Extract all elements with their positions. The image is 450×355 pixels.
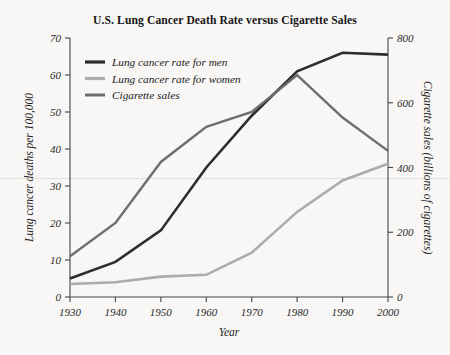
chart-plot: 010203040506070 0200400600800 1930194019…: [0, 0, 450, 355]
right-y-axis: 0200400600800: [388, 32, 414, 303]
left-axis-tick-label: 60: [50, 69, 62, 81]
chart-figure: U.S. Lung Cancer Death Rate versus Cigar…: [0, 0, 450, 355]
left-axis-tick-label: 50: [50, 106, 62, 118]
left-axis-tick-label: 20: [50, 217, 62, 229]
x-axis-tick-label: 1930: [59, 306, 82, 318]
right-axis-tick-label: 600: [397, 97, 414, 109]
y2-axis-title: Cigarette sales (billions of cigarettes): [421, 81, 434, 255]
chart-legend: Lung cancer rate for menLung cancer rate…: [85, 56, 241, 101]
x-axis-tick-label: 1940: [104, 306, 127, 318]
series-group: [70, 53, 388, 284]
left-axis-tick-label: 0: [56, 291, 62, 303]
y-axis-title: Lung cancer deaths per 100,000: [23, 93, 36, 243]
x-axis: 19301940195019601970198019902000: [59, 297, 400, 318]
legend-label: Cigarette sales: [112, 89, 180, 101]
legend-label: Lung cancer rate for men: [111, 56, 228, 68]
right-axis-tick-label: 0: [397, 291, 403, 303]
x-axis-tick-label: 1970: [241, 306, 264, 318]
x-axis-tick-label: 1960: [195, 306, 218, 318]
left-axis-tick-label: 70: [50, 32, 62, 44]
right-axis-tick-label: 400: [397, 162, 414, 174]
right-axis-tick-label: 800: [397, 32, 414, 44]
left-axis-tick-label: 40: [50, 143, 62, 155]
legend-label: Lung cancer rate for women: [111, 73, 241, 85]
left-axis-tick-label: 10: [50, 254, 62, 266]
right-axis-tick-label: 200: [397, 226, 414, 238]
x-axis-tick-label: 1990: [332, 306, 355, 318]
left-axis-tick-label: 30: [49, 180, 62, 192]
left-y-axis: 010203040506070: [49, 32, 70, 303]
x-axis-tick-label: 1980: [286, 306, 309, 318]
series-line-cigarette-sales: [70, 75, 388, 256]
series-line-lung-cancer-rate-for-men: [70, 53, 388, 279]
x-axis-tick-label: 1950: [150, 306, 173, 318]
x-axis-title: Year: [219, 326, 240, 338]
x-axis-tick-label: 2000: [377, 306, 400, 318]
series-line-lung-cancer-rate-for-women: [70, 164, 388, 284]
